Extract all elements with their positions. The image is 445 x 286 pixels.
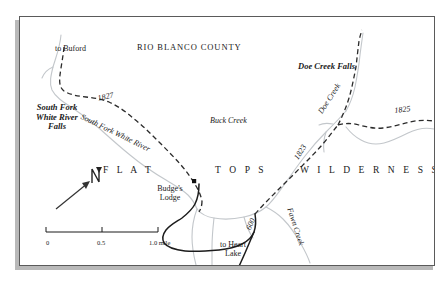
- road-doe-creek-north: [338, 30, 362, 125]
- label-tops: T O P S: [215, 165, 267, 176]
- county-title: RIO BLANCO COUNTY: [137, 43, 242, 53]
- label-to-buford: to Buford: [55, 45, 86, 54]
- scale-tick-one: 1.0 mile: [149, 239, 170, 246]
- map-figure: RIO BLANCO COUNTY to Buford South Fork W…: [0, 0, 445, 286]
- scale-bar-labels: 0 0.5 1.0 mile: [65, 239, 177, 250]
- stream-network: [42, 33, 434, 265]
- stream-east-tributary: [346, 127, 434, 144]
- scale-bar-graphic: [46, 227, 158, 232]
- label-to-heart-lake: to Heart Lake: [205, 241, 261, 259]
- stream-doe-creek-fork: [319, 123, 333, 125]
- road-1825: [338, 120, 434, 128]
- label-buck-creek: Buck Creek: [210, 117, 247, 126]
- scale-bar: 0 0.5 1.0 mile: [65, 239, 177, 250]
- stream-braid-west: [192, 209, 197, 265]
- scale-tick-half: 0.5: [97, 239, 105, 246]
- north-arrow-icon: [56, 167, 102, 209]
- label-wilderness: W I L D E R N E S S: [300, 165, 435, 176]
- label-doe-creek-falls: Doe Creek Falls: [298, 62, 355, 72]
- scale-tick-0: 0: [46, 239, 49, 246]
- label-to-heart-lake-line2: Lake: [205, 250, 261, 259]
- label-budges-lodge-line2: Lodge: [142, 194, 198, 203]
- budges-lodge-marker: [192, 179, 196, 183]
- label-budges-lodge: Budge's Lodge: [142, 185, 198, 203]
- label-south-fork-falls-line3: Falls: [20, 122, 94, 132]
- label-flat: F L A T: [103, 165, 154, 176]
- road-1827-lodge-spur: [199, 201, 202, 212]
- map-drawing: [20, 17, 434, 265]
- map-plate: RIO BLANCO COUNTY to Buford South Fork W…: [19, 16, 435, 266]
